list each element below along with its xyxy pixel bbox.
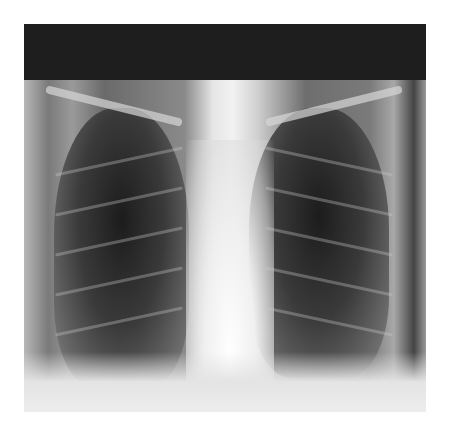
top-dark-band	[24, 24, 426, 80]
diaphragm	[24, 352, 426, 412]
chest-xray-image	[24, 24, 426, 412]
thorax-field	[24, 80, 426, 412]
